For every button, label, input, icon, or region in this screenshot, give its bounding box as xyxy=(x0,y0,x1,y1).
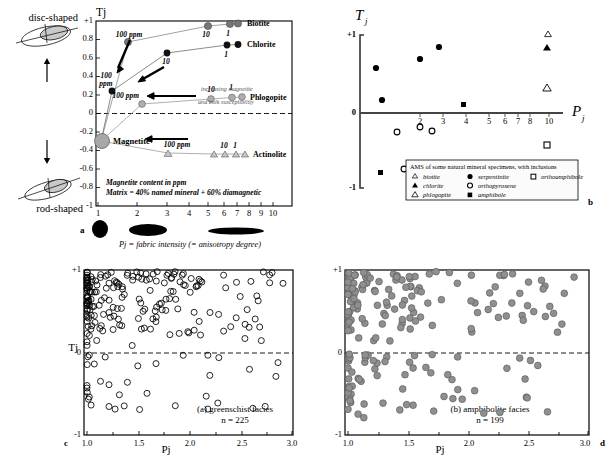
data-point xyxy=(93,278,99,284)
data-point xyxy=(403,284,410,291)
data-point xyxy=(144,390,150,396)
svg-text:4: 4 xyxy=(187,208,192,218)
data-point xyxy=(233,315,239,321)
data-point xyxy=(429,351,436,358)
panel-c: Tj +1 0 -1 1.0 1.5 2.0 2.5 3.0 xyxy=(64,264,297,455)
data-point xyxy=(359,315,366,322)
panel-c-xlabel: Pj xyxy=(161,443,170,455)
rod-shaped-label: rod-shaped xyxy=(36,203,83,214)
data-point xyxy=(561,290,568,297)
panel-d: +1 0 -1 1.0 1.5 2.0 2.5 3.0 xyxy=(333,264,605,455)
data-point xyxy=(280,280,286,286)
data-point xyxy=(267,280,273,286)
data-point xyxy=(492,283,499,290)
data-point xyxy=(242,321,248,327)
data-point xyxy=(221,328,227,334)
series-label-phlogopite: Phlogopite xyxy=(250,93,287,102)
data-point xyxy=(349,285,356,292)
panel-a-shape-glyphs xyxy=(92,220,264,238)
data-point xyxy=(361,401,368,408)
data-point xyxy=(175,306,181,312)
svg-text:2.0: 2.0 xyxy=(464,438,475,448)
panel-a-ylabel: Tj xyxy=(96,6,106,19)
data-point xyxy=(450,395,457,402)
svg-text:+1: +1 xyxy=(347,29,356,39)
data-point xyxy=(136,296,142,302)
data-point xyxy=(346,385,353,392)
data-point xyxy=(408,305,415,312)
data-point xyxy=(402,371,409,378)
data-point xyxy=(444,371,451,378)
svg-text:4: 4 xyxy=(464,116,469,126)
svg-text:3: 3 xyxy=(441,116,445,126)
data-point xyxy=(362,352,369,359)
panel-a-arrow-note: increasing magnetite and bulk susceptibi… xyxy=(198,85,254,105)
svg-text:ppm: ppm xyxy=(98,79,113,88)
data-point xyxy=(546,303,553,310)
panel-a-xlabel: Pj = fabric intensity (= anisotropy degr… xyxy=(118,240,261,249)
data-point xyxy=(396,407,403,414)
panel-d-scatter-points xyxy=(345,268,578,421)
panel-b-legend: AMS of some natural mineral specimens, w… xyxy=(406,160,583,200)
panel-d-subtitle: n = 199 xyxy=(476,415,504,425)
disc-shaped-label: disc-shaped xyxy=(28,12,78,23)
svg-text:-1: -1 xyxy=(74,429,81,439)
svg-text:1: 1 xyxy=(233,141,237,150)
data-point xyxy=(138,300,144,306)
data-point xyxy=(173,296,179,302)
panel-a-note: Magnetite content in ppm Matrix = 40% na… xyxy=(105,178,262,197)
data-point xyxy=(370,357,377,364)
data-point xyxy=(438,296,445,303)
data-point xyxy=(257,324,263,330)
svg-text:1: 1 xyxy=(224,50,228,59)
data-point xyxy=(372,288,379,295)
data-point xyxy=(380,400,387,407)
data-point xyxy=(216,311,222,317)
series-magnetite-point xyxy=(95,134,110,149)
data-point xyxy=(374,302,381,309)
svg-text:2: 2 xyxy=(135,208,139,218)
svg-text:2.5: 2.5 xyxy=(237,438,248,448)
data-point xyxy=(163,296,169,302)
data-point xyxy=(345,327,352,334)
data-point xyxy=(385,286,392,293)
data-point xyxy=(379,321,386,328)
svg-text:100 ppm: 100 ppm xyxy=(116,30,143,39)
data-point xyxy=(503,313,510,320)
panel-b: T j +1 0 -1 2 3 4 5 6 7 8 10 xyxy=(347,7,593,207)
series-label-chlorite: Chlorite xyxy=(247,40,276,49)
data-point xyxy=(152,308,158,314)
data-point xyxy=(501,271,508,278)
data-point xyxy=(530,308,537,315)
data-point xyxy=(485,306,492,313)
svg-text:-0.8: -0.8 xyxy=(80,181,93,191)
svg-text:8: 8 xyxy=(247,208,251,218)
data-point xyxy=(223,285,229,291)
svg-text:10: 10 xyxy=(162,57,170,66)
data-point xyxy=(351,272,358,279)
panel-b-yticks: +1 0 -1 xyxy=(347,29,356,192)
svg-text:1: 1 xyxy=(226,29,230,38)
svg-text:1: 1 xyxy=(96,208,100,218)
series-label-biotite: Biotite xyxy=(247,19,270,28)
data-point xyxy=(94,282,100,288)
data-point xyxy=(110,327,116,333)
panel-a: disc-shaped rod-shaped Tj +1 0.8 0.6 0.4 xyxy=(16,6,292,249)
data-point xyxy=(147,287,153,293)
panel-d-title: (b) amphibolite facies xyxy=(451,404,530,414)
svg-text:Matrix = 40% named mineral + 6: Matrix = 40% named mineral + 60% diamagn… xyxy=(105,188,262,197)
legend-label-phlogopite: phlogopite xyxy=(422,191,451,198)
panel-c-letter: c xyxy=(64,438,68,448)
svg-text:6: 6 xyxy=(222,208,226,218)
data-point xyxy=(98,378,104,384)
data-point xyxy=(121,403,127,409)
data-point xyxy=(509,270,516,277)
data-point xyxy=(412,318,419,325)
data-point xyxy=(406,273,413,280)
svg-text:and bulk susceptibility: and bulk susceptibility xyxy=(198,98,254,105)
svg-text:3.0: 3.0 xyxy=(287,438,298,448)
svg-text:+1: +1 xyxy=(84,15,93,25)
data-point xyxy=(172,403,178,409)
data-point xyxy=(112,406,118,412)
data-point xyxy=(86,352,92,358)
